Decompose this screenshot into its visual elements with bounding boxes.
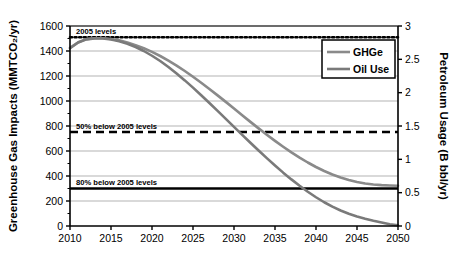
reference-line-label: 50% below 2005 levels (76, 122, 157, 131)
y-tick-label: 1400 (40, 45, 64, 57)
y-axis-title: Greenhouse Gas Impacts (MMTCO₂/yr) (7, 20, 19, 232)
y-tick-label: 600 (45, 145, 63, 157)
x-tick-label: 2010 (58, 232, 82, 244)
y2-tick-label: 2 (405, 86, 411, 98)
y-tick-label: 200 (45, 195, 63, 207)
y2-tick-label: 3 (405, 20, 411, 32)
x-tick-label: 2015 (99, 232, 123, 244)
y-tick-label: 400 (45, 170, 63, 182)
x-tick-label: 2020 (140, 232, 164, 244)
y2-tick-label: 1 (405, 153, 411, 165)
x-tick-label: 2045 (345, 232, 369, 244)
x-tick-label: 2030 (222, 232, 246, 244)
y2-tick-label: 2.5 (405, 53, 420, 65)
y-tick-label: 1200 (40, 70, 64, 82)
y-tick-label: 800 (45, 120, 63, 132)
y-tick-label: 1000 (40, 95, 64, 107)
y-tick-label: 0 (57, 220, 63, 232)
reference-line-label: 2005 levels (76, 27, 116, 36)
x-tick-label: 2040 (304, 232, 328, 244)
legend-label-oil-use: Oil Use (353, 63, 389, 75)
x-tick-label: 2050 (386, 232, 410, 244)
chart-legend: GHGeOil Use (322, 40, 395, 78)
y2-tick-label: 0 (405, 220, 411, 232)
reference-line-label: 80% below 2005 levels (76, 178, 157, 187)
y2-tick-label: 1.5 (405, 120, 420, 132)
y2-tick-label: 0.5 (405, 186, 420, 198)
chart-figure: 0200400600800100012001400160000.511.522.… (0, 0, 451, 262)
y-tick-label: 1600 (40, 20, 64, 32)
x-tick-label: 2035 (263, 232, 287, 244)
x-tick-label: 2025 (181, 232, 205, 244)
legend-label-ghge: GHGe (353, 46, 383, 58)
y2-axis-title: Petroleum Usage (B bbl/yr) (438, 52, 450, 200)
emissions-petroleum-line-chart: 0200400600800100012001400160000.511.522.… (0, 0, 451, 262)
